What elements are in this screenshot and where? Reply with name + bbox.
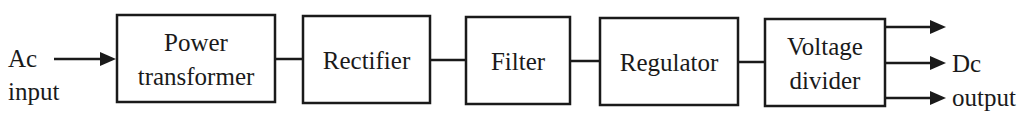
block-power-transformer-line2: transformer: [138, 63, 255, 90]
input-arrow: [54, 52, 116, 66]
block-power-transformer-line1: Power: [164, 29, 229, 56]
block-voltage-divider-line2: divider: [790, 67, 861, 94]
output-arrow-top: [885, 20, 946, 34]
output-arrow-bottom: [885, 91, 946, 105]
block-voltage-divider: Voltage divider: [765, 19, 885, 106]
block-rectifier-label: Rectifier: [323, 47, 411, 74]
block-diagram: Ac input Power transformer Rectifier Fil…: [0, 0, 1029, 121]
block-filter: Filter: [466, 17, 570, 104]
block-rectifier: Rectifier: [303, 16, 430, 103]
output-arrow-middle: [885, 56, 946, 70]
block-regulator: Regulator: [600, 18, 738, 105]
block-power-transformer: Power transformer: [117, 15, 275, 102]
output-label-line2: output: [952, 84, 1016, 111]
block-voltage-divider-line1: Voltage: [787, 33, 863, 60]
block-regulator-label: Regulator: [620, 49, 719, 76]
output-label-line1: Dc: [952, 50, 981, 77]
input-label-line1: Ac: [8, 45, 37, 72]
block-filter-label: Filter: [491, 48, 546, 75]
input-label-line2: input: [8, 78, 59, 105]
